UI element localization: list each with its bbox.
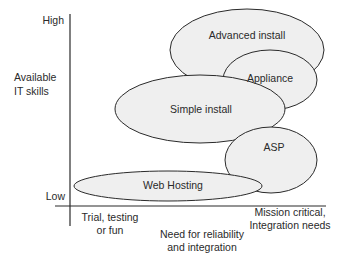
x-axis-left-label-line2: or fun	[97, 224, 124, 236]
diagram-canvas: Advanced install Appliance Simple instal…	[0, 0, 342, 262]
label-web-hosting: Web Hosting	[143, 179, 203, 191]
y-axis-title-line1: Available	[14, 71, 57, 83]
label-asp: ASP	[263, 141, 284, 153]
x-axis-center-label-line1: Need for reliability	[160, 228, 245, 240]
x-axis-right-label-line2: Integration needs	[249, 219, 330, 231]
label-simple-install: Simple install	[170, 103, 232, 115]
y-axis-high-label: High	[42, 14, 64, 26]
label-appliance: Appliance	[247, 72, 293, 84]
x-axis-center-label-line2: and integration	[167, 241, 237, 253]
y-axis-low-label: Low	[46, 190, 66, 202]
y-axis-title-line2: IT skills	[14, 85, 49, 97]
label-advanced-install: Advanced install	[209, 29, 285, 41]
x-axis-right-label-line1: Mission critical,	[254, 206, 325, 218]
x-axis-left-label-line1: Trial, testing	[82, 211, 139, 223]
